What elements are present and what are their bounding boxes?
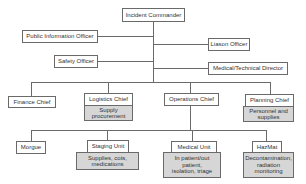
planning-drop xyxy=(270,82,271,94)
operations-trunk xyxy=(190,106,191,130)
safety-officer-node: Safety Officer xyxy=(54,55,98,68)
trunk-line xyxy=(153,22,154,82)
morgue-drop xyxy=(31,130,32,141)
operations-chief-node: Operations Chief xyxy=(164,93,219,106)
finance-drop xyxy=(31,82,32,96)
units-bus-line xyxy=(31,130,267,131)
morgue-node: Morgue xyxy=(16,141,46,154)
planning-note: Personnel and supplies xyxy=(243,106,294,122)
logistics-note: Supply procurement xyxy=(84,105,133,121)
public-information-officer-node: Public Information Officer xyxy=(22,30,98,43)
medical-unit-note: In patient/out patient, isolation, triag… xyxy=(163,152,221,178)
staging-drop xyxy=(107,130,108,140)
operations-drop xyxy=(190,82,191,93)
medtech-connector xyxy=(153,68,208,69)
medical-technical-director-node: Medical/Technical Director xyxy=(208,62,288,75)
incident-commander-node: Incident Commander xyxy=(122,8,185,22)
logistics-drop xyxy=(108,82,109,93)
medical-unit-drop xyxy=(192,130,193,141)
hazmat-drop xyxy=(266,130,267,141)
chiefs-bus-line xyxy=(31,82,271,83)
liaison-officer-node: Liason Officer xyxy=(208,38,250,51)
staging-unit-note: Supplies, cots, medications xyxy=(76,152,139,170)
hazmat-note: Decontamination, radiation monitoring xyxy=(243,152,294,178)
finance-chief-node: Finance Chief xyxy=(8,96,56,108)
pio-connector xyxy=(97,36,153,37)
liaison-connector xyxy=(153,44,208,45)
safety-connector xyxy=(97,61,153,62)
